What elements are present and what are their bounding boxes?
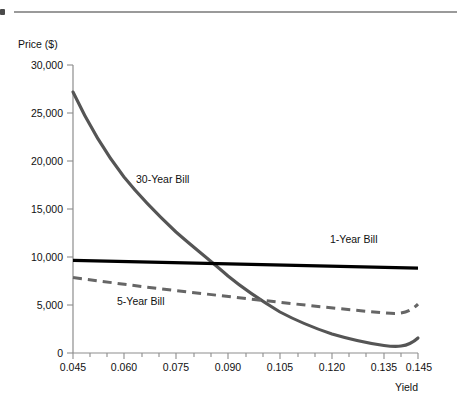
- series-label-1-year-bill: 1-Year Bill: [330, 233, 377, 245]
- x-tick-label-0075: 0.075: [163, 361, 189, 373]
- series-line-1-year-bill: [73, 260, 418, 268]
- series-label-30-year-bill: 30-Year Bill: [136, 173, 189, 185]
- series-line-30-year-bill: [73, 92, 418, 346]
- x-axis-title: Yield: [395, 381, 418, 393]
- y-tick-label-25000: 25,000: [31, 107, 63, 119]
- y-tick-label-30000: 30,000: [31, 59, 63, 71]
- y-tick-label-20000: 20,000: [31, 155, 63, 167]
- x-tick-label-0090: 0.090: [215, 361, 241, 373]
- y-tick-label-0: 0: [57, 347, 63, 359]
- x-tick-label-0145: 0.145: [406, 361, 432, 373]
- y-axis-ticks: [67, 65, 73, 353]
- y-tick-label-15000: 15,000: [31, 203, 63, 215]
- x-tick-label-0105: 0.105: [267, 361, 293, 373]
- x-tick-label-0135: 0.135: [371, 361, 397, 373]
- price-yield-chart: 30,000 25,000 20,000 15,000 10,000 5,000…: [0, 0, 457, 402]
- x-tick-label-0045: 0.045: [60, 361, 86, 373]
- x-tick-label-0120: 0.120: [319, 361, 345, 373]
- y-tick-label-10000: 10,000: [31, 251, 63, 263]
- series-label-5-year-bill: 5-Year Bill: [117, 295, 164, 307]
- x-tick-label-0060: 0.060: [111, 361, 137, 373]
- figure-container: 30,000 25,000 20,000 15,000 10,000 5,000…: [0, 0, 457, 402]
- y-axis-title: Price ($): [18, 38, 58, 50]
- y-tick-label-5000: 5,000: [37, 299, 63, 311]
